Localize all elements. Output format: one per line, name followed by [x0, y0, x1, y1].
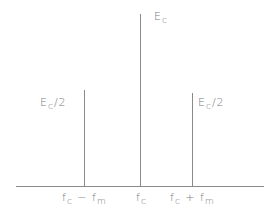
x-label-upper: fc + fm: [170, 191, 215, 206]
x-label-lower: fc − fm: [62, 191, 107, 206]
upper-sideband-line: [192, 93, 193, 186]
upper-amplitude-label: Ec/2: [198, 96, 225, 111]
lower-sideband-line: [84, 90, 85, 186]
lower-amplitude-label: Ec/2: [40, 96, 67, 111]
carrier-line: [140, 14, 141, 186]
frequency-axis: [16, 186, 264, 187]
x-label-carrier: fc: [136, 191, 147, 206]
carrier-amplitude-label: Ec: [154, 10, 168, 25]
